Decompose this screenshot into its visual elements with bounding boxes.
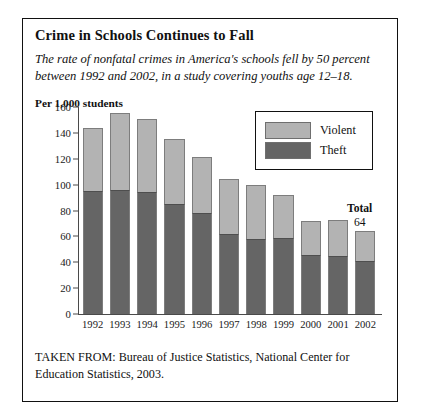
bar-segment-violent-1999 xyxy=(273,195,293,238)
x-axis-tick-label-2002: 2002 xyxy=(355,314,376,330)
bar-segment-violent-1995 xyxy=(164,139,184,204)
x-axis-tick-label-2001: 2001 xyxy=(327,314,348,330)
bar-1997 xyxy=(219,179,239,314)
bar-1998 xyxy=(246,185,266,314)
x-axis-tick-label-1996: 1996 xyxy=(191,314,212,330)
x-axis-tick-label-1995: 1995 xyxy=(164,314,185,330)
y-axis-tick-mark xyxy=(73,158,79,159)
y-axis-tick-mark xyxy=(73,107,79,108)
bar-segment-theft-2000 xyxy=(301,255,321,315)
y-axis-tick-mark xyxy=(73,132,79,133)
bar-segment-theft-2002 xyxy=(355,261,375,314)
bar-segment-violent-1996 xyxy=(192,157,212,213)
bar-segment-violent-1997 xyxy=(219,179,239,233)
y-axis-tick-mark xyxy=(73,210,79,211)
bar-1996 xyxy=(192,157,212,314)
chart-plot-area: 0204060801001201401601992199319941995199… xyxy=(79,107,379,314)
bar-1999 xyxy=(273,195,293,314)
bar-1995 xyxy=(164,139,184,314)
y-axis-tick-mark xyxy=(73,236,79,237)
bar-segment-theft-1992 xyxy=(83,191,103,314)
bar-2001 xyxy=(328,220,348,314)
y-axis-tick-mark xyxy=(73,288,79,289)
x-axis-tick-label-1992: 1992 xyxy=(82,314,103,330)
bar-segment-violent-2001 xyxy=(328,220,348,256)
bar-segment-theft-1997 xyxy=(219,234,239,314)
bar-1994 xyxy=(137,119,157,314)
x-axis-tick-label-1999: 1999 xyxy=(273,314,294,330)
y-axis-tick-mark xyxy=(73,184,79,185)
x-axis-tick-label-1993: 1993 xyxy=(109,314,130,330)
bar-segment-violent-1998 xyxy=(246,185,266,239)
bar-segment-theft-1999 xyxy=(273,238,293,314)
y-axis-tick-mark xyxy=(73,262,79,263)
bar-1992 xyxy=(83,128,103,314)
bar-segment-theft-1994 xyxy=(137,192,157,314)
figure-panel: Crime in Schools Continues to Fall The r… xyxy=(22,18,398,402)
bar-segment-violent-1993 xyxy=(110,113,130,189)
bar-segment-violent-2000 xyxy=(301,221,321,255)
bar-segment-theft-1998 xyxy=(246,239,266,314)
bar-segment-theft-1993 xyxy=(110,190,130,314)
bar-1993 xyxy=(110,113,130,314)
x-axis-tick-label-1997: 1997 xyxy=(218,314,239,330)
y-axis-tick-mark xyxy=(73,314,79,315)
bar-segment-violent-1992 xyxy=(83,128,103,191)
bar-segment-theft-2001 xyxy=(328,256,348,314)
bar-2000 xyxy=(301,221,321,314)
page-title: Crime in Schools Continues to Fall xyxy=(35,27,254,44)
x-axis-tick-label-1994: 1994 xyxy=(137,314,158,330)
bar-segment-theft-1996 xyxy=(192,213,212,314)
bar-2002 xyxy=(355,231,375,314)
bar-segment-theft-1995 xyxy=(164,204,184,314)
source-citation: TAKEN FROM: Bureau of Justice Statistics… xyxy=(35,349,387,382)
bar-segment-violent-1994 xyxy=(137,119,157,193)
x-axis-tick-label-2000: 2000 xyxy=(300,314,321,330)
figure-subtitle: The rate of nonfatal crimes in America's… xyxy=(35,51,387,84)
bar-segment-violent-2002 xyxy=(355,231,375,261)
x-axis-tick-label-1998: 1998 xyxy=(246,314,267,330)
